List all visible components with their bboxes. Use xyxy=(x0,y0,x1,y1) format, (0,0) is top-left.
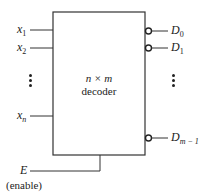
input-label-x1: x1 xyxy=(17,23,26,38)
output-label-dm1: Dm − 1 xyxy=(171,131,199,146)
output-subscript: m − 1 xyxy=(180,137,199,146)
input-label-x2: x2 xyxy=(17,41,26,56)
output-label-d0: D0 xyxy=(171,24,184,39)
decoder-label: n × m decoder xyxy=(53,72,145,98)
enable-label: E xyxy=(20,164,27,176)
input-subscript: 2 xyxy=(22,47,26,56)
inversion-bubble-dm1 xyxy=(146,135,152,141)
output-subscript: 0 xyxy=(180,30,184,39)
enable-caption: (enable) xyxy=(6,180,42,191)
inversion-bubble-d0 xyxy=(146,28,152,34)
output-name: D xyxy=(171,40,180,54)
output-label-d1: D1 xyxy=(171,41,184,56)
decoder-title: decoder xyxy=(53,85,145,98)
output-ellipsis xyxy=(172,74,175,89)
input-subscript: n xyxy=(22,115,26,124)
output-subscript: 1 xyxy=(180,47,184,56)
enable-line xyxy=(30,155,100,171)
output-name: D xyxy=(171,23,180,37)
decoder-size: n × m xyxy=(53,72,145,85)
input-subscript: 1 xyxy=(22,29,26,38)
output-name: D xyxy=(171,130,180,144)
inversion-bubble-d1 xyxy=(146,45,152,51)
input-ellipsis xyxy=(29,74,32,89)
input-label-xn: xn xyxy=(17,109,26,124)
